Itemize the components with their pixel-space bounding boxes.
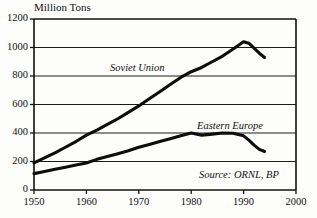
y-tick-label: 200	[12, 155, 28, 166]
x-tick-label: 1960	[66, 196, 106, 207]
series-label-eastern-europe: Eastern Europe	[197, 120, 263, 131]
y-tick-label: 600	[12, 98, 28, 109]
x-tick-label: 1980	[171, 196, 211, 207]
data-line-eastern-europe	[34, 133, 265, 174]
y-tick-label: 400	[12, 126, 28, 137]
series-label-soviet-union: Soviet Union	[110, 62, 165, 73]
x-tick-label: 1970	[119, 196, 159, 207]
y-tick-label: 0	[23, 183, 28, 194]
x-tick-label: 2000	[276, 196, 316, 207]
chart-figure: Million Tons 020040060080010001200 19501…	[0, 0, 317, 218]
chart-plot-svg-wrapper	[0, 0, 317, 218]
x-tick-label: 1950	[14, 196, 54, 207]
source-note: Source: ORNL, BP	[199, 169, 279, 180]
y-tick-label: 800	[12, 69, 28, 80]
y-tick-label: 1000	[7, 41, 28, 52]
y-tick-label: 1200	[7, 12, 28, 23]
x-tick-label: 1990	[224, 196, 264, 207]
chart-canvas	[0, 0, 317, 218]
